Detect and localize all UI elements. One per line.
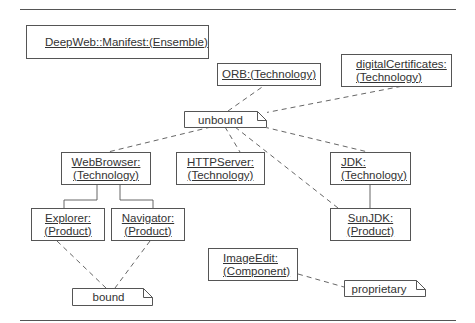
node-navigator[interactable]: Navigator: (Product) [111, 208, 185, 241]
node-webbrowser[interactable]: WebBrowser: (Technology) [61, 152, 151, 185]
node-jdk[interactable]: JDK: (Technology) [330, 152, 411, 185]
node-label: ImageEdit: [223, 252, 278, 265]
node-label: ORB:(Technology) [222, 68, 316, 81]
node-imageedit[interactable]: ImageEdit: (Component) [208, 248, 298, 281]
node-httpserver[interactable]: HTTPServer: (Technology) [176, 152, 265, 185]
note-proprietary[interactable]: proprietary [344, 280, 426, 297]
node-label: (Technology) [341, 169, 407, 182]
node-label: (Component) [223, 265, 290, 278]
node-label: DeepWeb::Manifest:(Ensemble) [45, 36, 208, 49]
node-label: HTTPServer: [187, 156, 254, 169]
node-sunjdk[interactable]: SunJDK: (Product) [330, 208, 411, 241]
node-digital-certificates[interactable]: digitalCertificates: (Technology) [341, 54, 452, 87]
note-label: bound [93, 291, 125, 303]
node-label: (Product) [347, 225, 394, 238]
node-label: (Product) [124, 225, 171, 238]
node-label: JDK: [341, 156, 366, 169]
node-label: (Technology) [73, 169, 139, 182]
node-label: WebBrowser: [72, 156, 141, 169]
note-bound[interactable]: bound [72, 288, 153, 306]
note-label: proprietary [352, 283, 407, 295]
node-orb[interactable]: ORB:(Technology) [217, 63, 321, 86]
node-label: Navigator: [122, 212, 174, 225]
diagram-canvas: DeepWeb::Manifest:(Ensemble) ORB:(Techno… [0, 0, 475, 323]
node-label: Explorer: [45, 212, 91, 225]
node-label: (Technology) [188, 169, 254, 182]
node-label: (Product) [44, 225, 91, 238]
node-label: (Technology) [356, 71, 422, 84]
note-label: unbound [198, 114, 243, 126]
note-unbound[interactable]: unbound [184, 111, 267, 128]
node-label: digitalCertificates: [356, 58, 447, 71]
node-deepweb-manifest[interactable]: DeepWeb::Manifest:(Ensemble) [26, 25, 209, 59]
node-explorer[interactable]: Explorer: (Product) [31, 208, 105, 241]
node-label: SunJDK: [348, 212, 393, 225]
